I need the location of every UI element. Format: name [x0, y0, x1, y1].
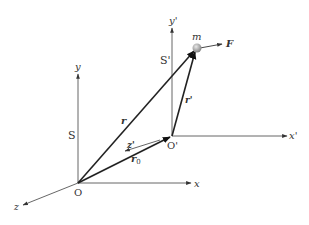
- label-mass-m: m: [192, 31, 201, 42]
- label-z-prime: z': [126, 140, 135, 150]
- label-x: x: [194, 178, 200, 189]
- force-arrow: [200, 44, 222, 48]
- label-y: y: [74, 61, 81, 72]
- vector-r-prime: [172, 52, 195, 136]
- z-axis: [23, 183, 78, 205]
- vector-r0: [78, 137, 170, 183]
- label-vector-r: r: [121, 115, 127, 126]
- reference-frames-diagram: y x z O S y' x' z' O' S' m F r r' r0: [0, 0, 309, 225]
- r0-subscript: 0: [136, 158, 140, 166]
- label-origin-o: O: [74, 187, 82, 198]
- label-x-prime: x': [289, 130, 297, 141]
- vectors: [78, 44, 222, 183]
- label-z: z: [13, 202, 19, 212]
- label-origin-o-prime: O': [167, 140, 178, 151]
- label-vector-r-prime: r': [185, 95, 193, 105]
- label-vector-r0: r0: [131, 153, 141, 166]
- labels: y x z O S y' x' z' O' S' m F r r' r0: [13, 15, 297, 212]
- label-frame-s: S: [68, 129, 76, 142]
- label-force-f: F: [225, 38, 234, 49]
- frame-s-prime-axes: [125, 28, 287, 151]
- label-y-prime: y': [168, 15, 177, 26]
- label-frame-s-prime: S': [160, 54, 171, 67]
- particle-ball: [193, 44, 202, 53]
